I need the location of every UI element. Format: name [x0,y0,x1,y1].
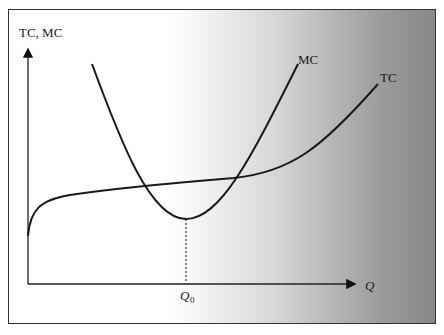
q0-subscript: 0 [190,295,195,305]
x-axis-label: Q [365,278,375,293]
q0-label: Q [180,288,190,303]
y-axis-label: TC, MC [19,25,62,40]
cost-curves-diagram: TC, MC MC TC Q Q 0 [0,0,444,335]
mc-label: MC [298,52,318,67]
tc-label: TC [380,70,397,85]
mc-curve [92,64,298,219]
